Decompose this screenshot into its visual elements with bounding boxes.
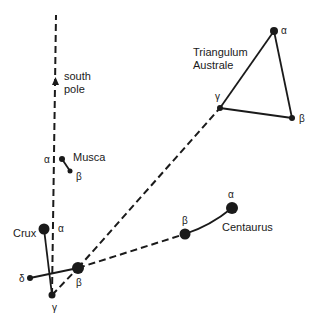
stars [27, 27, 295, 299]
crux-delta-label: δ [19, 273, 25, 284]
crux-alpha-star [39, 224, 50, 235]
tra-gamma-star [217, 105, 223, 111]
crux-gamma-label: γ [52, 302, 57, 313]
tra-beta-label: β [299, 113, 305, 124]
musca-beta-star [68, 169, 73, 174]
musca-beta-label: β [76, 171, 82, 182]
tra-beta-gamma [220, 108, 292, 118]
south-pole-label-line1: south [64, 70, 91, 82]
crux-alpha-label: α [58, 223, 64, 234]
crux-delta-star [27, 275, 33, 281]
star-chart: south pole Musca Crux Centaurus Triangul… [0, 0, 314, 323]
tra-alpha-beta [274, 31, 292, 118]
tra-alpha-star [270, 27, 278, 35]
south-pole-label-line2: pole [64, 83, 85, 95]
tra-gamma-label: γ [215, 91, 220, 102]
centaurus-beta-star [180, 229, 191, 240]
tra-beta-star [289, 115, 295, 121]
south-pole-line [52, 15, 56, 295]
crux-to-triangulum-line [78, 108, 220, 268]
centaurus-beta-label: β [182, 215, 188, 226]
crux-alpha-gamma [44, 229, 52, 295]
tra-alpha-label: α [281, 25, 287, 36]
crux-beta-label: β [76, 277, 82, 288]
triangulum-label-line1: Triangulum [193, 46, 248, 58]
musca-label: Musca [73, 151, 106, 163]
centaurus-alpha-label: α [228, 189, 234, 200]
triangulum-label-line2: Australe [193, 59, 233, 71]
crux-label: Crux [13, 227, 37, 239]
south-pole-arrow-icon [52, 77, 59, 85]
crux-gamma-star [49, 292, 56, 299]
musca-alpha-star [59, 156, 65, 162]
centaurus-label: Centaurus [222, 221, 273, 233]
centaurus-alpha-star [226, 202, 238, 214]
musca-alpha-label: α [44, 154, 50, 165]
crux-beta-star [72, 262, 84, 274]
